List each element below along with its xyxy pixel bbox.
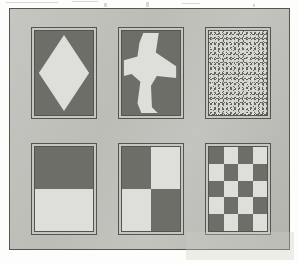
checker-cell-light: [122, 189, 151, 231]
checker-cell-dark: [122, 147, 151, 189]
checker-cell-dark: [224, 164, 239, 181]
panel-inner: [34, 146, 94, 232]
diamond-field: [35, 31, 93, 115]
checker-cell-dark: [209, 214, 224, 231]
panel-checkerboard-2x2: [118, 143, 184, 235]
scan-artifact: [253, 4, 255, 7]
panel-noise: [205, 27, 271, 119]
scan-artifact: [146, 2, 149, 7]
panel-checkerboard-4x5: [205, 143, 271, 235]
panel-inner: [121, 30, 181, 116]
airplane-shape-icon: [122, 31, 180, 115]
checker-cell-dark: [209, 181, 224, 198]
checker-cell-dark: [151, 189, 180, 231]
figure-plate: [9, 8, 290, 250]
checker-cell-dark: [224, 197, 239, 214]
panel-inner: [34, 30, 94, 116]
checker-cell-light: [209, 197, 224, 214]
checker-cell-light: [209, 164, 224, 181]
noise-texture: [209, 31, 267, 115]
checker-cell-dark: [238, 147, 253, 164]
airplane-field: [122, 31, 180, 115]
checker-cell-dark: [253, 197, 268, 214]
panel-grid: [31, 27, 271, 235]
checker-cell-light: [238, 164, 253, 181]
checker-cell-light: [224, 147, 239, 164]
screenshot-root: [0, 0, 298, 263]
checkerboard-2x2-field: [122, 147, 180, 231]
checker-cell-dark: [238, 214, 253, 231]
checker-cell-light: [238, 197, 253, 214]
panel-horizontal-split: [31, 143, 97, 235]
scan-artifact: [72, 1, 98, 2]
checker-cell-light: [253, 214, 268, 231]
panel-airplane: [118, 27, 184, 119]
panel-inner: [208, 30, 268, 116]
panel-inner: [208, 146, 268, 232]
split-field: [35, 147, 93, 231]
checker-cell-light: [224, 181, 239, 198]
checker-cell-light: [224, 214, 239, 231]
checker-cell-dark: [238, 181, 253, 198]
diamond-shape-icon: [35, 31, 93, 115]
checker-cell-dark: [209, 147, 224, 164]
scan-artifact: [104, 3, 107, 7]
checkerboard-4x5-field: [209, 147, 267, 231]
panel-diamond: [31, 27, 97, 119]
panel-inner: [121, 146, 181, 232]
scan-artifact: [182, 3, 200, 4]
split-half-bottom: [35, 189, 93, 231]
checker-cell-light: [253, 181, 268, 198]
checker-cell-dark: [253, 164, 268, 181]
split-half-top: [35, 147, 93, 189]
scan-artifact: [6, 2, 58, 3]
checker-cell-light: [151, 147, 180, 189]
checker-cell-light: [253, 147, 268, 164]
